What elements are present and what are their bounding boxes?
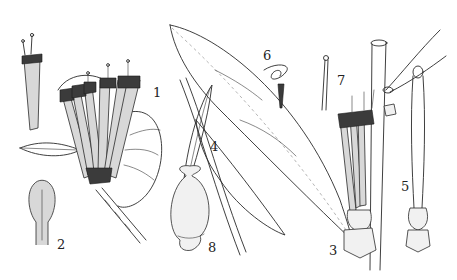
figure-8-fruit (171, 166, 209, 251)
figure-label-4: 4 (210, 140, 218, 153)
lower-leaf (196, 120, 285, 235)
flower-cluster-1 (60, 60, 140, 184)
figure-7-style (322, 56, 329, 111)
lower-left-leaf (20, 143, 80, 156)
figure-label-5: 5 (401, 180, 409, 193)
figure-label-3: 3 (329, 244, 337, 257)
left-flower-tube (24, 58, 40, 130)
figure-label-7: 7 (337, 74, 345, 87)
figure-6-coiled-stamen (264, 65, 287, 108)
figure-2-pistil (29, 180, 55, 245)
main-stem-1 (96, 190, 140, 243)
figure-label-1: 1 (153, 86, 161, 99)
figure-label-2: 2 (57, 238, 65, 251)
figure-5-single-flower (406, 66, 430, 252)
figure-label-6: 6 (263, 49, 271, 62)
flower-cluster-3 (338, 90, 376, 258)
botanical-plate (0, 0, 457, 280)
figure-label-8: 8 (208, 241, 216, 254)
